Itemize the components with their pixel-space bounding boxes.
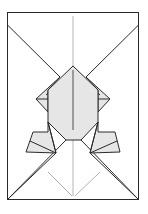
origami-diagram xyxy=(0,0,148,214)
